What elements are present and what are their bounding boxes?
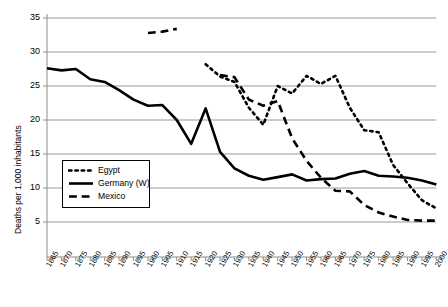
- y-tick-label: 35: [14, 12, 40, 22]
- legend-key-dotted: [68, 165, 94, 176]
- y-tick-label: 25: [14, 80, 40, 90]
- y-tick-label: 20: [14, 114, 40, 124]
- legend-label: Egypt: [98, 165, 120, 176]
- series-line-mexico: [220, 75, 436, 221]
- legend-item[interactable]: Mexico: [68, 190, 144, 203]
- legend-key-solid: [68, 178, 94, 189]
- y-tick-label: 30: [14, 46, 40, 56]
- legend-item[interactable]: Germany (W): [68, 177, 144, 190]
- legend-item[interactable]: Egypt: [68, 164, 144, 177]
- legend-label: Germany (W): [98, 178, 150, 189]
- y-tick-label: 5: [14, 216, 40, 226]
- chart-container: Deaths per 1,000 inhabitants 51015202530…: [0, 0, 448, 307]
- legend-label: Mexico: [98, 191, 125, 202]
- series-line-mexico: [148, 29, 177, 33]
- legend-key-dashed: [68, 191, 94, 202]
- y-tick-label: 10: [14, 182, 40, 192]
- caption-strip: [0, 299, 448, 307]
- y-tick-label: 15: [14, 148, 40, 158]
- y-axis-ticks: [43, 18, 47, 222]
- legend[interactable]: EgyptGermany (W)Mexico: [62, 160, 150, 208]
